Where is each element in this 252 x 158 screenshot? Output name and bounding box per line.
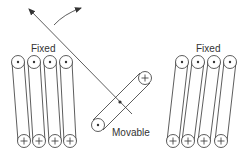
conductor-tube: [28, 56, 46, 148]
fixed-left-label: Fixed: [31, 44, 55, 54]
conductor-tube: [198, 56, 221, 148]
conductor-tube: [167, 56, 189, 148]
fixed-coil-left: [12, 56, 77, 148]
conductor-tube: [12, 56, 31, 148]
dot-icon: [213, 61, 215, 63]
dot-icon: [97, 124, 99, 126]
dot-icon: [49, 61, 51, 63]
dot-icon: [65, 61, 67, 63]
fixed-coil-right: [167, 56, 237, 148]
conductor-tube: [60, 56, 77, 148]
movable-label: Movable: [112, 128, 150, 138]
dot-icon: [229, 61, 231, 63]
fixed-right-label: Fixed: [196, 44, 220, 54]
dot-icon: [33, 61, 35, 63]
dot-icon: [17, 61, 19, 63]
dot-icon: [181, 61, 183, 63]
pivot-dot-icon: [118, 100, 121, 103]
conductor-tube: [215, 56, 237, 148]
conductor-tube: [182, 56, 205, 148]
conductor-tube: [44, 56, 62, 148]
rotation-arrow: [54, 8, 81, 25]
dot-icon: [197, 61, 199, 63]
